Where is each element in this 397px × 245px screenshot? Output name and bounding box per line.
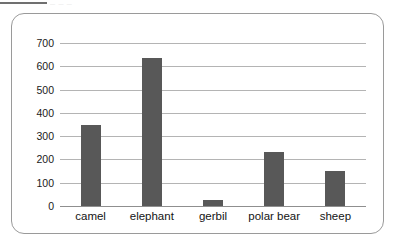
y-axis-tick-label: 700	[20, 37, 54, 49]
x-axis: camelelephantgerbilpolar bearsheep	[60, 210, 366, 232]
cut-off-text-fragment: — — —	[50, 2, 90, 6]
y-axis-tick-label: 100	[20, 177, 54, 189]
y-axis-tick-label: 200	[20, 153, 54, 165]
bar	[142, 58, 162, 206]
y-axis: 0100200300400500600700	[16, 43, 54, 206]
x-axis-tick-label: gerbil	[199, 210, 227, 222]
bar	[81, 125, 101, 207]
x-axis-tick-label: sheep	[320, 210, 351, 222]
x-axis-tick-label: polar bear	[248, 210, 300, 222]
bar-series	[60, 43, 366, 206]
axis-baseline	[60, 206, 366, 207]
y-axis-tick-label: 400	[20, 107, 54, 119]
x-axis-tick-label: elephant	[130, 210, 174, 222]
bar	[325, 171, 345, 206]
y-axis-tick-label: 0	[20, 200, 54, 212]
y-axis-tick-label: 300	[20, 130, 54, 142]
y-axis-tick-label: 600	[20, 60, 54, 72]
horizontal-rule	[0, 2, 47, 4]
x-axis-tick-label: camel	[75, 210, 106, 222]
chart-frame: 0100200300400500600700 camelelephantgerb…	[11, 13, 384, 234]
y-axis-tick-label: 500	[20, 84, 54, 96]
bar	[203, 200, 223, 206]
bar	[264, 152, 284, 206]
bar-chart: 0100200300400500600700 camelelephantgerb…	[12, 14, 385, 235]
page-artifact-above-figure: — — —	[0, 2, 90, 5]
